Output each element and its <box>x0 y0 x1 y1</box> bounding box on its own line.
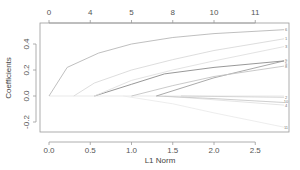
y-tick-label: 0.2 <box>22 64 31 76</box>
y-tick-label: 0.4 <box>22 38 31 50</box>
y-tick-label: 0.0 <box>22 90 31 102</box>
x-axis: 0.00.51.01.52.02.5 <box>43 142 261 155</box>
coefficient-paths <box>49 30 284 128</box>
x-tick-label: 1.5 <box>167 146 179 155</box>
y-axis-title: Coefficients <box>4 57 13 99</box>
x-tick-label: 1.0 <box>126 146 138 155</box>
path-labels: 613958210411 <box>284 27 289 130</box>
path-label-1: 1 <box>285 36 288 41</box>
x-tick-label: 2.5 <box>250 146 262 155</box>
path-label-6: 6 <box>285 27 288 32</box>
top-axis-nonzero-count: 04581011 <box>47 8 260 23</box>
top-tick-label: 4 <box>88 8 93 17</box>
path-label-8: 8 <box>285 64 288 69</box>
path-label-3: 3 <box>285 44 288 49</box>
top-tick-label: 11 <box>251 8 260 17</box>
plot-frame <box>40 23 289 132</box>
x-tick-label: 0.0 <box>43 146 55 155</box>
y-tick-label: -0.2 <box>22 115 31 129</box>
path-label-11: 11 <box>284 125 289 130</box>
coefficient-path-8 <box>132 66 285 96</box>
top-tick-label: 10 <box>210 8 219 17</box>
top-tick-label: 0 <box>47 8 52 17</box>
top-tick-label: 5 <box>129 8 134 17</box>
x-axis-title: L1 Norm <box>145 156 176 165</box>
coefficient-path-3 <box>94 47 284 96</box>
coefficient-path-11 <box>123 96 284 127</box>
coefficient-path-5 <box>156 61 284 96</box>
x-tick-label: 0.5 <box>85 146 97 155</box>
coefficient-path-6 <box>49 30 284 96</box>
y-axis: -0.20.00.20.4 <box>22 38 36 129</box>
x-tick-label: 2.0 <box>208 146 220 155</box>
coefficient-path-1 <box>74 39 284 96</box>
lasso-coefficient-path-chart: 0.00.51.01.52.02.5 04581011 -0.20.00.20.… <box>0 0 300 170</box>
top-tick-label: 8 <box>171 8 176 17</box>
